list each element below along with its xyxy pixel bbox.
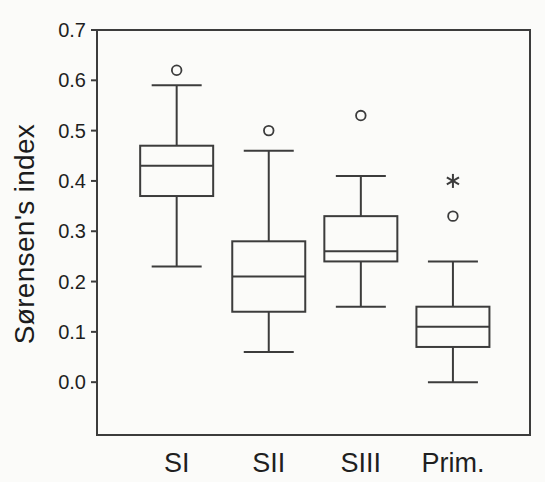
y-tick-label: 0.3 — [58, 220, 86, 242]
boxplot-canvas: 0.00.10.20.30.40.50.60.7SISIISIIIPrim. — [0, 0, 545, 482]
plot-frame — [97, 30, 530, 435]
category-label: SIII — [341, 448, 382, 478]
outlier-circle — [448, 211, 458, 221]
y-tick-label: 0.0 — [58, 371, 86, 393]
y-tick-label: 0.2 — [58, 271, 86, 293]
y-tick-label: 0.5 — [58, 120, 86, 142]
category-label: Prim. — [421, 448, 484, 478]
box-group-sii — [232, 126, 305, 352]
outlier-circle — [172, 65, 182, 75]
iqr-box — [324, 216, 397, 261]
box-group-prim — [416, 174, 489, 382]
box-group-siii — [324, 111, 397, 307]
category-label: SII — [252, 448, 285, 478]
y-tick-label: 0.6 — [58, 69, 86, 91]
y-tick-label: 0.4 — [58, 170, 86, 192]
outlier-circle — [356, 111, 366, 121]
boxplot-figure: Sørensen's index 0.00.10.20.30.40.50.60.… — [0, 0, 545, 482]
box-group-si — [140, 65, 213, 266]
iqr-box — [140, 146, 213, 196]
outlier-circle — [264, 126, 274, 136]
category-label: SI — [164, 448, 190, 478]
y-tick-label: 0.7 — [58, 19, 86, 41]
y-tick-label: 0.1 — [58, 321, 86, 343]
